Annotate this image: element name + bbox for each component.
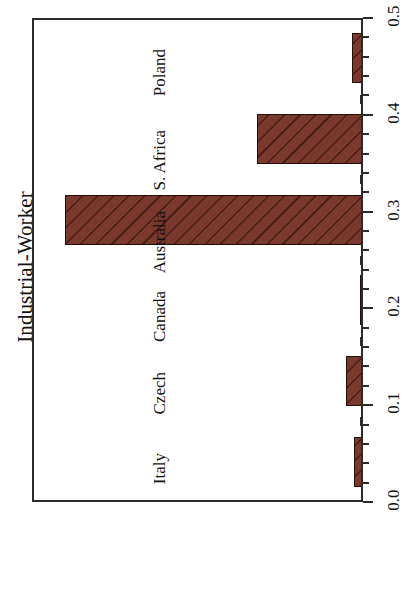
y-axis-tick-label: 0.1 — [384, 380, 404, 426]
category-tick — [360, 95, 362, 104]
y-axis-major-tick — [363, 17, 373, 19]
bars-area — [32, 18, 363, 502]
y-axis-tick-label: 0.0 — [384, 477, 404, 523]
category-tick — [360, 417, 362, 426]
bar-chart: Industrial-Worker 0.00.10.20.30.40.5Pola… — [0, 0, 410, 605]
y-axis-minor-tick — [363, 269, 369, 271]
bar — [257, 114, 363, 164]
category-tick — [360, 256, 362, 265]
y-axis-minor-tick — [363, 385, 369, 387]
y-axis-tick-label: 0.5 — [384, 0, 404, 39]
y-axis-major-tick — [363, 211, 373, 213]
y-axis-minor-tick — [363, 191, 369, 193]
category-tick — [360, 175, 362, 184]
y-axis-minor-tick — [363, 327, 369, 329]
y-axis-minor-tick — [363, 346, 369, 348]
y-axis-major-tick — [363, 404, 373, 406]
bar — [65, 195, 363, 245]
y-axis-minor-tick — [363, 75, 369, 77]
y-axis-minor-tick — [363, 172, 369, 174]
y-axis-major-tick — [363, 114, 373, 116]
y-axis-minor-tick — [363, 288, 369, 290]
y-axis-minor-tick — [363, 133, 369, 135]
y-axis-minor-tick — [363, 94, 369, 96]
y-axis-minor-tick — [363, 230, 369, 232]
category-tick — [360, 337, 362, 346]
y-axis-minor-tick — [363, 462, 369, 464]
y-axis-minor-tick — [363, 365, 369, 367]
category-label: Italy — [150, 453, 170, 573]
y-axis-major-tick — [363, 307, 373, 309]
y-axis-minor-tick — [363, 36, 369, 38]
y-axis-tick-label: 0.4 — [384, 90, 404, 136]
y-axis-minor-tick — [363, 56, 369, 58]
y-axis-tick-label: 0.3 — [384, 187, 404, 233]
y-axis-tick-label: 0.2 — [384, 283, 404, 329]
y-axis-minor-tick — [363, 153, 369, 155]
y-axis-minor-tick — [363, 424, 369, 426]
y-axis-minor-tick — [363, 482, 369, 484]
y-axis-minor-tick — [363, 249, 369, 251]
y-axis-minor-tick — [363, 443, 369, 445]
y-axis-major-tick — [363, 501, 373, 503]
